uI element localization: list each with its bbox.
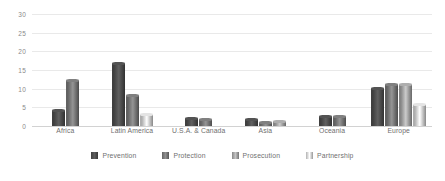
x-axis: AfricaLatin AmericaU.S.A. & CanadaAsiaOc… [32, 127, 432, 141]
bar-top-cap [259, 121, 272, 124]
bar-top-cap [319, 115, 332, 118]
bar-top-cap [399, 83, 412, 86]
bar-body [185, 119, 198, 126]
bar[interactable] [385, 85, 398, 126]
bar-top-cap [385, 83, 398, 86]
bar[interactable] [66, 81, 79, 126]
legend-label: Prevention [102, 152, 136, 159]
legend-item[interactable]: Partnership [306, 152, 353, 159]
bar[interactable] [112, 64, 125, 126]
bar[interactable] [199, 120, 212, 126]
bar-top-cap [371, 87, 384, 90]
bar[interactable] [273, 122, 286, 126]
y-tick-label: 25 [18, 29, 26, 36]
bar[interactable] [52, 111, 65, 126]
bar-group [299, 14, 366, 126]
bar-top-cap [333, 115, 346, 118]
bar[interactable] [126, 96, 139, 126]
legend-label: Protection [173, 152, 205, 159]
bar-group [32, 14, 99, 126]
bar-body [52, 111, 65, 126]
legend-swatch-prevention [91, 152, 98, 159]
bar-body [199, 120, 212, 126]
bar-top-cap [52, 109, 65, 112]
bar-groups [32, 14, 432, 126]
bar[interactable] [413, 105, 426, 126]
legend-item[interactable]: Protection [162, 152, 205, 159]
legend-swatch-protection [162, 152, 169, 159]
bar-top-cap [185, 117, 198, 120]
bar-group [232, 14, 299, 126]
bar[interactable] [185, 119, 198, 126]
bar-top-cap [273, 120, 286, 123]
bar-body [371, 89, 384, 126]
bar-body [112, 64, 125, 126]
bar-group [99, 14, 166, 126]
bar[interactable] [371, 89, 384, 126]
legend-label: Prosecution [243, 152, 281, 159]
y-tick-label: 15 [18, 67, 26, 74]
x-axis-label: Asia [232, 127, 299, 141]
x-axis-label: Africa [32, 127, 99, 141]
legend-label: Partnership [317, 152, 353, 159]
bar-body [413, 105, 426, 126]
y-axis: 051015202530 [0, 14, 30, 126]
bar-body [245, 120, 258, 126]
x-axis-label: U.S.A. & Canada [165, 127, 232, 141]
bar-group [165, 14, 232, 126]
y-tick-label: 5 [22, 104, 26, 111]
bar-body [319, 117, 332, 126]
bar-top-cap [126, 94, 139, 97]
y-tick-label: 0 [22, 123, 26, 130]
x-axis-label: Europe [365, 127, 432, 141]
y-tick-label: 10 [18, 85, 26, 92]
bar[interactable] [319, 117, 332, 126]
bar-body [66, 81, 79, 126]
bar-body [333, 117, 346, 126]
x-axis-label: Oceania [299, 127, 366, 141]
bar-body [385, 85, 398, 126]
legend-swatch-prosecution [232, 152, 239, 159]
bar-body [399, 85, 412, 126]
bar[interactable] [140, 115, 153, 126]
bar-chart: 051015202530 AfricaLatin AmericaU.S.A. &… [0, 0, 445, 181]
bar-body [140, 115, 153, 126]
bar[interactable] [399, 85, 412, 126]
y-tick-label: 30 [18, 11, 26, 18]
bar[interactable] [259, 123, 272, 126]
bar-top-cap [140, 113, 153, 116]
chart-legend: PreventionProtectionProsecutionPartnersh… [0, 152, 445, 159]
bar[interactable] [245, 120, 258, 126]
y-tick-label: 20 [18, 48, 26, 55]
x-axis-label: Latin America [99, 127, 166, 141]
bar-top-cap [66, 79, 79, 82]
legend-swatch-partnership [306, 152, 313, 159]
bar-group [365, 14, 432, 126]
bar-body [126, 96, 139, 126]
bar[interactable] [333, 117, 346, 126]
legend-item[interactable]: Prevention [91, 152, 136, 159]
legend-item[interactable]: Prosecution [232, 152, 281, 159]
